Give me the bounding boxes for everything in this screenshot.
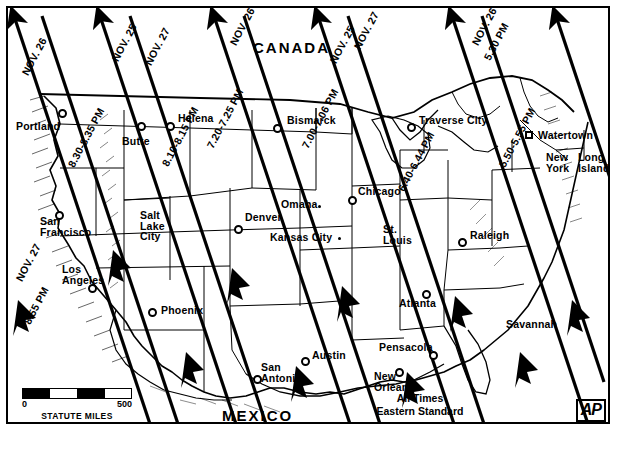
city-label-helena: Helena (178, 113, 214, 124)
city-label-st-louis: St. Louis (383, 224, 417, 245)
city-marker-raleigh (458, 238, 467, 247)
eclipse-path-map: CANADA MEXICO NOV. 26 NOV. 25 NOV. 27 NO… (0, 0, 622, 452)
city-marker-denver (234, 225, 243, 234)
city-label-savannah: Savannah (506, 319, 557, 330)
scale-bar-segments (22, 388, 132, 399)
city-marker-kansas-city (338, 237, 341, 240)
city-label-pensacola: Pensacola (379, 342, 433, 353)
city-marker-omaha (318, 205, 321, 208)
map-base-graphics (0, 0, 622, 452)
city-label-bismarck: Bismarck (287, 115, 336, 126)
scale-min-label: 0 (22, 399, 27, 409)
caption-line-2: Eastern Standard (360, 405, 480, 418)
city-label-los-angeles: Los Angeles (62, 264, 104, 285)
scale-bar-labels: 0 500 (22, 399, 132, 410)
city-label-salt-lake-city: Salt Lake City (140, 210, 178, 242)
city-marker-helena (166, 122, 175, 131)
city-label-watertown: Watertown (538, 130, 593, 141)
ap-logo: AP (576, 399, 606, 422)
city-marker-portland (58, 109, 67, 118)
city-label-butte: Butte (122, 136, 150, 147)
map-caption: All Times Eastern Standard (360, 392, 480, 418)
city-marker-phoenix (148, 308, 157, 317)
city-label-new-york: New York (546, 152, 580, 173)
city-label-traverse-city: Traverse City (419, 115, 488, 126)
caption-line-1: All Times (360, 392, 480, 405)
scale-max-label: 500 (117, 399, 132, 409)
scale-units-label: STATUTE MILES (22, 411, 132, 421)
city-label-austin: Austin (312, 350, 346, 361)
country-label-mexico: MEXICO (222, 408, 293, 423)
city-label-phoenix: Phoenix (161, 305, 203, 316)
city-label-new-orleans: New Orleans (374, 371, 414, 392)
city-label-kansas-city: Kansas City (270, 232, 332, 243)
scale-bar: 0 500 STATUTE MILES (22, 388, 132, 421)
city-marker-watertown (525, 131, 533, 139)
city-label-denver: Denver (245, 212, 282, 223)
city-label-chicago: Chicago (358, 186, 401, 197)
city-marker-chicago (348, 196, 357, 205)
city-label-long-island: Long Island (578, 152, 618, 173)
city-label-san-francisco: San Francisco (40, 216, 84, 237)
city-marker-austin (301, 357, 310, 366)
city-label-san-antonio: San Antonio (261, 362, 301, 383)
city-marker-traverse-city (407, 123, 416, 132)
country-label-canada: CANADA (253, 40, 330, 55)
city-marker-bismarck (273, 124, 282, 133)
city-marker-butte (137, 122, 146, 131)
city-label-omaha: Omaha (281, 199, 318, 210)
city-label-raleigh: Raleigh (470, 230, 509, 241)
city-label-atlanta: Atlanta (399, 298, 436, 309)
city-label-portland: Portland (16, 121, 60, 132)
